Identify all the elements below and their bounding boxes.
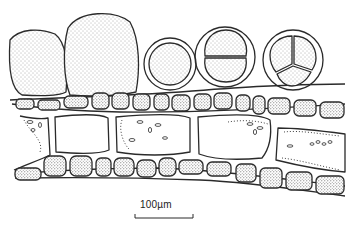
large-cell-2 [64, 14, 138, 96]
bisected-spore-top [205, 30, 247, 56]
tetraspore-right [294, 36, 316, 70]
medulla-cell-2 [116, 115, 190, 155]
bisected-spore-bottom [205, 58, 247, 82]
illustration [0, 0, 349, 232]
scale-bar-label: 100µm [140, 199, 172, 210]
granules [27, 121, 332, 148]
scale-bar [135, 214, 193, 218]
upper-cortex [16, 93, 344, 118]
spore [149, 43, 191, 85]
medulla-cell-3 [198, 115, 271, 159]
tetraspore-left [270, 36, 292, 72]
medulla-cell-4 [276, 128, 345, 172]
lower-cortex [15, 156, 344, 194]
medulla-cell-1 [55, 115, 109, 153]
large-cell-1 [10, 30, 67, 95]
